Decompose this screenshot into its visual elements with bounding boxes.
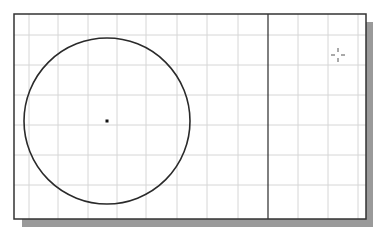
canvas-shadow-right — [366, 22, 373, 227]
canvas-shadow-bottom — [22, 219, 373, 227]
circle-center-point — [106, 120, 109, 123]
cad-drawing-canvas[interactable] — [0, 0, 380, 237]
